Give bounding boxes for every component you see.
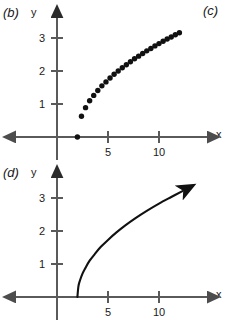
scatter-points-b [75,30,182,140]
scatter-point [79,114,84,119]
y-tick-label-2-b: 2 [39,65,45,77]
y-tick-label-3-d: 3 [39,192,45,204]
figure-panel-b: (b) (c) y x 5 10 [0,0,230,160]
x-tick-label-10-d: 10 [153,306,165,318]
scatter-point [75,134,80,139]
y-tick-label-1-b: 1 [39,98,45,110]
y-tick-label-3-b: 3 [39,32,45,44]
x-tick-label-5-b: 5 [105,146,111,158]
y-axis-d: 1 2 3 [39,176,63,320]
scatter-point [177,30,182,35]
y-tick-label-1-d: 1 [39,258,45,270]
scatter-point [95,88,100,93]
y-tick-label-2-d: 2 [39,225,45,237]
scatter-point [107,75,112,80]
curve-path-d [77,191,182,297]
x-tick-label-10-b: 10 [153,146,165,158]
scatter-point [87,98,92,103]
line-plot-d: 5 10 1 2 3 [0,160,230,320]
scatter-point [99,83,104,88]
scatter-plot-b: 5 10 1 2 3 [0,0,230,160]
figure-panel-d: (d) y x 5 10 [0,160,230,320]
x-axis-b: 5 10 [14,131,209,158]
scatter-point [103,79,108,84]
x-axis-d: 5 10 [14,291,209,318]
scatter-point [91,93,96,98]
scatter-point [83,105,88,110]
x-tick-label-5-d: 5 [105,306,111,318]
y-axis-b: 1 2 3 [39,16,63,160]
